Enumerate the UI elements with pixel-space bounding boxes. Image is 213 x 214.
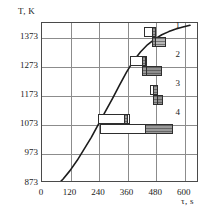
- bar-group-label: 4: [175, 108, 180, 117]
- y-axis-tick-label: 1273: [20, 61, 38, 70]
- y-axis-tick-labels: 8739731073117312731373: [0, 22, 38, 182]
- bar-group-label: 3: [175, 79, 180, 88]
- plot-area: [41, 22, 198, 182]
- bar-inner-hatch: [146, 125, 173, 133]
- lower-shaded-bar: [152, 37, 167, 47]
- y-axis-title: T, K: [18, 6, 35, 16]
- bar-inner-block: [153, 96, 158, 104]
- bar-inner-hatch: [143, 57, 146, 65]
- x-axis-tick-label: 0: [39, 188, 44, 197]
- y-axis-tick-label: 1373: [20, 32, 38, 41]
- y-axis-tick-label: 973: [25, 148, 39, 157]
- x-axis-tick-labels: 0120240360480600: [41, 188, 198, 202]
- x-axis-tick-label: 240: [91, 188, 105, 197]
- bar-inner-hatch: [153, 38, 155, 46]
- upper-open-bar: [130, 56, 147, 66]
- bar-inner-block: [142, 67, 147, 75]
- upper-open-bar: [98, 114, 129, 124]
- x-axis-tick-label: 360: [120, 188, 134, 197]
- bar-inner-block: [124, 115, 128, 123]
- lower-shaded-bar: [142, 66, 162, 76]
- bar-inner-hatch: [125, 115, 127, 123]
- x-axis-tick-label: 600: [177, 188, 191, 197]
- lower-shaded-bar: [100, 124, 174, 134]
- upper-open-bar: [144, 27, 156, 37]
- heating-curve: [42, 23, 197, 181]
- lower-shaded-bar: [153, 95, 163, 105]
- bar-group-label: 1: [175, 21, 180, 30]
- x-axis-tick-label: 480: [148, 188, 162, 197]
- x-axis-tick-label: 120: [63, 188, 77, 197]
- upper-open-bar: [150, 85, 158, 95]
- y-axis-tick-label: 1173: [20, 90, 38, 99]
- bar-inner-block: [152, 38, 156, 46]
- bar-inner-hatch: [143, 67, 146, 75]
- bar-inner-hatch: [154, 86, 157, 94]
- chart-figure: T, K τ, s 8739731073117312731373 0120240…: [0, 0, 213, 214]
- bar-inner-block: [153, 86, 158, 94]
- bar-inner-block: [142, 57, 147, 65]
- bar-inner-hatch: [154, 96, 157, 104]
- bar-inner-block: [145, 125, 174, 133]
- bar-inner-block: [152, 28, 156, 36]
- bar-group-label: 2: [175, 50, 180, 59]
- y-axis-tick-label: 1073: [20, 119, 38, 128]
- y-axis-tick-label: 873: [25, 178, 39, 187]
- bar-inner-hatch: [153, 28, 155, 36]
